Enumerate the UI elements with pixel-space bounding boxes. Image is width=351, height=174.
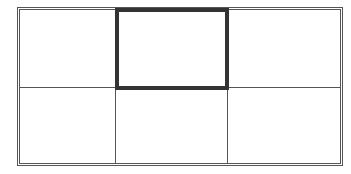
cell-r2-c2[interactable] [116,88,227,163]
selected-cell-r1-c2[interactable] [115,8,229,90]
cell-r2-c1[interactable] [20,88,115,163]
cell-r1-c3[interactable] [228,10,340,87]
cell-r2-c3[interactable] [228,88,340,163]
grid-table [17,7,343,166]
cell-r1-c1[interactable] [20,10,115,87]
